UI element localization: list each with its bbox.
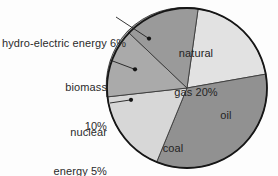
label-text-hydro: hydro-electric energy 6% bbox=[2, 37, 126, 50]
label-text-oil: oil bbox=[208, 109, 244, 122]
leader-dot-hydro bbox=[147, 37, 151, 41]
label-text-natural-gas-line1: natural bbox=[160, 47, 232, 60]
slice-label-oil: oil bbox=[208, 83, 244, 148]
leader-dot-nuclear bbox=[129, 98, 133, 102]
slice-label-coal: coal 25% bbox=[145, 116, 201, 176]
label-text-nuclear-line2: energy 5% bbox=[24, 165, 107, 176]
pie-chart-figure: hydro-electric energy 6% biomass 10% nuc… bbox=[0, 0, 278, 176]
slice-callout-label-nuclear-energy: nuclear energy 5% bbox=[24, 100, 107, 176]
leader-dot-biomass bbox=[133, 67, 137, 71]
label-text-nuclear-line1: nuclear bbox=[24, 126, 107, 139]
label-text-coal-line1: coal bbox=[145, 142, 201, 155]
label-text-biomass-line1: biomass bbox=[40, 81, 107, 94]
